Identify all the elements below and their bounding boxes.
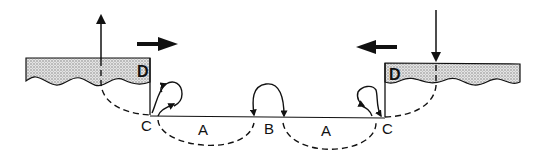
floor-line xyxy=(150,116,385,118)
right-block: D xyxy=(385,63,520,117)
center-label: B xyxy=(264,120,274,137)
right-arc-label: A xyxy=(321,122,331,139)
left-arc-label: A xyxy=(198,121,208,138)
left-block-label: D xyxy=(137,63,149,80)
diagram-canvas: D D xyxy=(0,0,539,166)
left-block: D xyxy=(26,58,150,115)
right-block-label: D xyxy=(389,66,401,83)
left-corner-eddy-icon xyxy=(152,82,182,116)
right-corner-label: C xyxy=(382,120,393,137)
left-pointing-arrow-icon xyxy=(356,40,397,54)
left-corner-label: C xyxy=(141,117,152,134)
right-corner-eddy-icon xyxy=(357,86,381,116)
right-pointing-arrow-icon xyxy=(137,37,178,51)
center-eddy-icon xyxy=(253,84,284,116)
